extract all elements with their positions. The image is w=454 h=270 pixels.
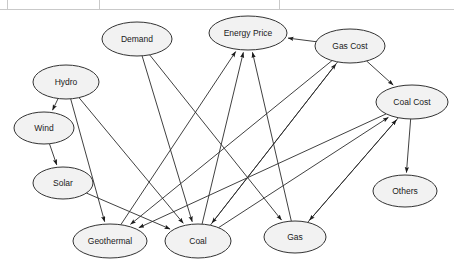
causal-graph: DemandEnergy PriceGas CostCoal CostHydro… — [0, 0, 454, 270]
node-geothermal[interactable]: Geothermal — [73, 224, 147, 258]
node-others[interactable]: Others — [373, 175, 437, 207]
node-shape-coal_cost[interactable] — [376, 85, 448, 119]
edge-coal_cost-to-others — [406, 119, 410, 173]
node-energy_price[interactable]: Energy Price — [209, 16, 287, 50]
edge-hydro-to-coal — [79, 98, 183, 224]
node-shape-gas_cost[interactable] — [315, 29, 385, 63]
edge-coal_cost-to-geothermal — [139, 114, 386, 228]
node-demand[interactable]: Demand — [102, 22, 172, 56]
node-solar[interactable]: Solar — [33, 167, 93, 199]
node-shape-gas[interactable] — [264, 221, 326, 253]
node-gas_cost[interactable]: Gas Cost — [315, 29, 385, 63]
edge-gas-to-energy_price — [252, 52, 291, 221]
node-coal[interactable]: Coal — [165, 224, 231, 258]
node-coal_cost[interactable]: Coal Cost — [376, 85, 448, 119]
diagram-canvas: DemandEnergy PriceGas CostCoal CostHydro… — [0, 0, 454, 270]
edge-wind-to-solar — [49, 144, 56, 165]
node-shape-solar[interactable] — [33, 167, 93, 199]
node-shape-others[interactable] — [373, 175, 437, 207]
edge-gas_cost-to-energy_price — [288, 38, 316, 42]
edge-gas-to-coal_cost — [308, 120, 397, 223]
node-shape-coal[interactable] — [165, 224, 231, 258]
edge-gas_cost-to-geothermal — [131, 61, 333, 225]
node-hydro[interactable]: Hydro — [33, 65, 99, 99]
node-shape-geothermal[interactable] — [73, 224, 147, 258]
edge-gas_cost-to-coal_cost — [367, 61, 394, 85]
node-shape-wind[interactable] — [14, 112, 74, 144]
nodes-layer: DemandEnergy PriceGas CostCoal CostHydro… — [14, 16, 448, 258]
edge-geothermal-to-energy_price — [121, 52, 236, 225]
edge-solar-to-coal — [86, 193, 170, 229]
node-shape-energy_price[interactable] — [209, 16, 287, 50]
node-shape-demand[interactable] — [102, 22, 172, 56]
node-wind[interactable]: Wind — [14, 112, 74, 144]
edge-hydro-to-geothermal — [71, 99, 105, 222]
edges-layer — [49, 38, 410, 229]
edge-demand-to-coal — [142, 56, 192, 222]
node-gas[interactable]: Gas — [264, 221, 326, 253]
edge-hydro-to-wind — [53, 99, 59, 111]
edge-demand-to-gas — [150, 55, 282, 220]
node-shape-hydro[interactable] — [33, 65, 99, 99]
